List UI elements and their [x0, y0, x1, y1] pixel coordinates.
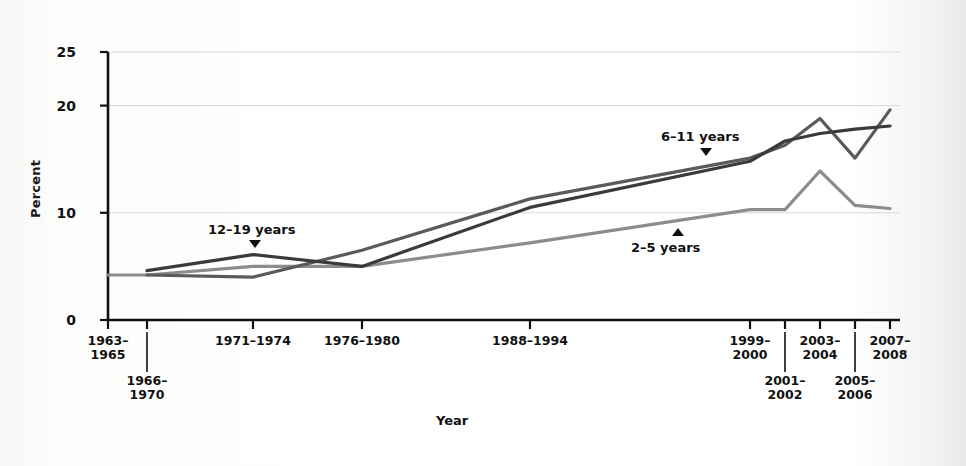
x-tick-label-2005-2006: 2005–2006: [809, 374, 901, 402]
series-label-2-5-years: 2–5 years: [631, 240, 700, 255]
x-tick-label-line1: 1971–1974: [215, 333, 291, 348]
x-tick-label-1966-1970: 1966–1970: [101, 374, 193, 402]
x-tick-label-line1: 1966–: [126, 373, 167, 388]
y-axis-title: Percent: [28, 160, 43, 218]
y-tick-label-0: 0: [42, 312, 76, 328]
y-tick-label-10: 10: [42, 205, 76, 221]
x-tick-label-line2: 2000: [733, 347, 768, 362]
x-tick-label-line1: 2003–: [799, 333, 840, 348]
x-tick-label-line2: 1965: [91, 347, 126, 362]
x-tick-label-1971-1974: 1971–1974: [207, 334, 299, 348]
x-tick-label-line1: 2005–: [834, 373, 875, 388]
chart-figure: Percent 25 20 10 0 1963–19651966–1970197…: [0, 0, 966, 466]
x-tick-label-1976-1980: 1976–1980: [316, 334, 408, 348]
x-axis-ticks: [108, 320, 890, 329]
x-tick-label-1988-1994: 1988–1994: [484, 334, 576, 348]
x-tick-label-line1: 1988–1994: [492, 333, 568, 348]
x-tick-label-line1: 1999–: [729, 333, 770, 348]
x-tick-label-line2: 2006: [838, 387, 873, 402]
x-tick-label-line2: 2008: [873, 347, 908, 362]
data-series-group: [108, 110, 890, 277]
y-tick-label-25: 25: [42, 44, 76, 60]
gridlines: [108, 52, 900, 213]
x-tick-label-line1: 1976–1980: [324, 333, 400, 348]
x-tick-label-line1: 1963–: [87, 333, 128, 348]
pointer-triangle-2-5-years: [672, 228, 684, 236]
pointer-triangle-6-11-years: [700, 148, 712, 156]
series-label-6-11-years: 6–11 years: [661, 129, 739, 144]
series-label-12-19-years: 12–19 years: [208, 222, 295, 237]
x-tick-label-1963-1965: 1963–1965: [62, 334, 154, 362]
x-tick-label-line2: 1970: [130, 387, 165, 402]
axis-lines: [108, 52, 900, 320]
x-tick-label-line1: 2007–: [869, 333, 910, 348]
x-tick-label-line2: 2004: [803, 347, 838, 362]
pointer-triangle-12-19-years: [249, 240, 261, 248]
x-tick-label-line1: 2001–: [764, 373, 805, 388]
y-tick-label-20: 20: [42, 98, 76, 114]
x-tick-label-line2: 2002: [768, 387, 803, 402]
x-axis-title: Year: [436, 413, 468, 428]
x-tick-label-2007-2008: 2007–2008: [844, 334, 936, 362]
